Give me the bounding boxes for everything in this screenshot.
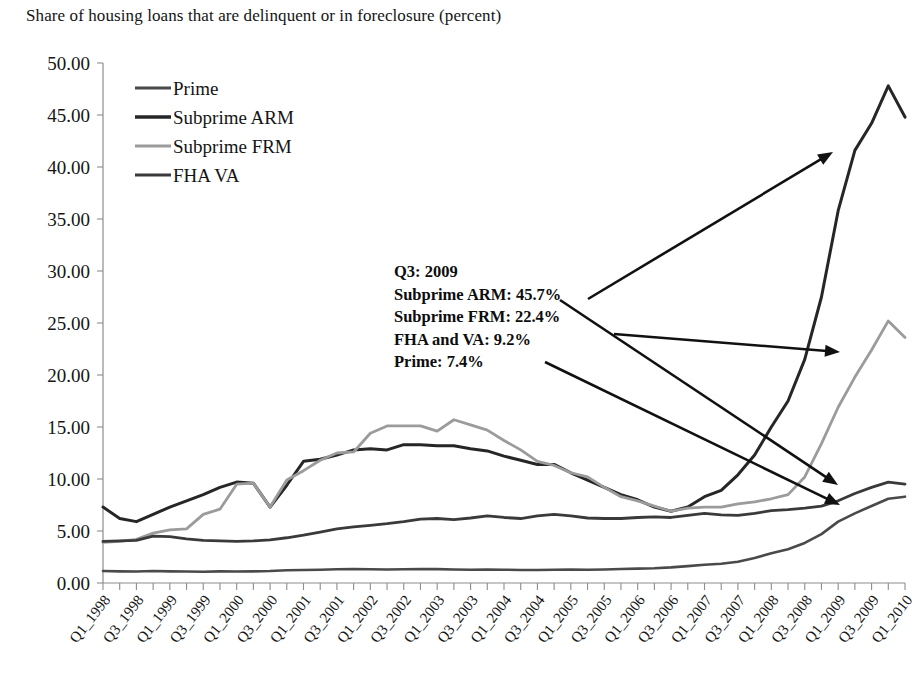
arrow-head xyxy=(822,472,838,485)
y-tick-label: 15.00 xyxy=(47,417,90,438)
y-tick-label: 50.00 xyxy=(47,53,90,74)
legend-label-fha-va: FHA VA xyxy=(173,165,240,186)
y-tick-label: 10.00 xyxy=(47,469,90,490)
annotation-line: FHA and VA: 9.2% xyxy=(394,330,531,349)
y-axis-labels: 0.005.0010.0015.0020.0025.0030.0035.0040… xyxy=(47,53,90,594)
line-chart-plot: 0.005.0010.0015.0020.0025.0030.0035.0040… xyxy=(0,0,923,675)
legend-label-prime: Prime xyxy=(173,78,218,99)
arrow-head xyxy=(825,345,840,357)
y-tick-label: 30.00 xyxy=(47,261,90,282)
legend-label-subprime-frm: Subprime FRM xyxy=(173,136,292,157)
y-tick-label: 35.00 xyxy=(47,209,90,230)
chart-figure: Share of housing loans that are delinque… xyxy=(0,0,923,675)
annotation-textbox: Q3: 2009Subprime ARM: 45.7%Subprime FRM:… xyxy=(394,262,561,371)
x-axis-labels: Q1_1998Q3_1998Q1_1999Q3_1999Q1_2000Q3_20… xyxy=(66,592,915,646)
callout-arrow-to-subprime-arm-line xyxy=(588,152,833,299)
series-line-fha-va xyxy=(103,482,905,541)
legend-label-subprime-arm: Subprime ARM xyxy=(173,107,294,128)
arrow-head xyxy=(824,493,840,505)
annotation-line: Prime: 7.4% xyxy=(394,352,484,371)
annotation-line: Subprime FRM: 22.4% xyxy=(394,307,560,326)
y-tick-label: 40.00 xyxy=(47,157,90,178)
y-tick-label: 5.00 xyxy=(57,521,90,542)
y-tick-label: 45.00 xyxy=(47,105,90,126)
annotation-line: Q3: 2009 xyxy=(394,262,458,281)
chart-legend: PrimeSubprime ARMSubprime FRMFHA VA xyxy=(135,78,294,186)
arrow-shaft xyxy=(614,334,827,351)
series-line-prime xyxy=(103,497,905,572)
y-tick-label: 0.00 xyxy=(57,573,90,594)
arrow-head xyxy=(817,152,833,165)
callout-arrows-group xyxy=(545,152,840,505)
arrow-shaft xyxy=(588,159,822,299)
y-tick-label: 25.00 xyxy=(47,313,90,334)
annotation-line: Subprime ARM: 45.7% xyxy=(394,285,561,304)
callout-arrow-to-fha-va-line xyxy=(560,300,838,485)
y-tick-label: 20.00 xyxy=(47,365,90,386)
